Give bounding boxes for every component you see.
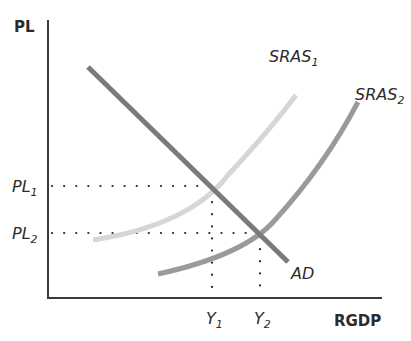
y-axis-title: PL [14, 18, 35, 36]
sras2-curve [158, 102, 358, 274]
sras2-label: SRAS2 [355, 85, 404, 107]
as-ad-diagram: PL RGDP SRAS1 SRAS2 AD PL1 PL2 Y1 Y2 [0, 0, 411, 341]
ad-curve [88, 67, 288, 262]
x-axis-title: RGDP [334, 312, 381, 330]
ad-label: AD [290, 264, 314, 283]
pl1-label: PL1 [12, 177, 38, 199]
y2-label: Y2 [254, 309, 271, 331]
y1-label: Y1 [206, 309, 223, 331]
sras1-label: SRAS1 [269, 47, 318, 69]
pl2-label: PL2 [12, 224, 38, 246]
